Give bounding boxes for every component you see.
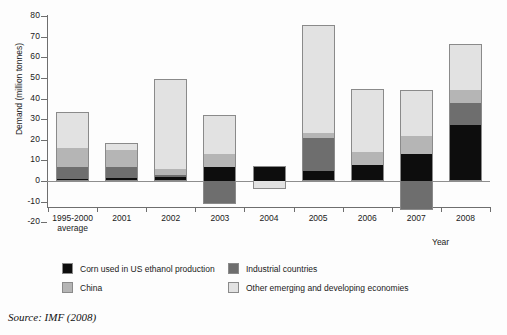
y-tick-label: 40 xyxy=(0,94,40,103)
bar-segment xyxy=(56,167,89,179)
x-tick-label-line: 2007 xyxy=(407,213,426,223)
y-tick-label: 30 xyxy=(0,114,40,123)
x-tick xyxy=(48,207,49,212)
bar-segment xyxy=(302,138,335,171)
bar-segment xyxy=(56,148,89,167)
legend-item-china: China xyxy=(62,282,102,293)
x-tick-label: 2006 xyxy=(343,213,392,223)
chart-figure: Demand (million tonnes) 8070605040302010… xyxy=(0,0,507,335)
x-tick-label-line: 1995-2000 xyxy=(52,213,93,223)
bar-segment xyxy=(105,167,138,178)
x-tick xyxy=(195,207,196,212)
x-tick-label-line: average xyxy=(57,223,88,233)
bar-segment xyxy=(56,112,89,148)
bar-segment xyxy=(253,166,286,167)
legend-row: Corn used in US ethanol production Indus… xyxy=(62,263,482,282)
x-tick-label: 2008 xyxy=(441,213,490,223)
bar-segment xyxy=(400,181,433,210)
source-note: Source: IMF (2008) xyxy=(8,311,96,323)
bar-segment xyxy=(203,154,236,166)
chart-legend: Corn used in US ethanol production Indus… xyxy=(62,263,482,301)
y-tick-label: 60 xyxy=(0,52,40,61)
bar-segment xyxy=(351,152,384,164)
bar-segment xyxy=(105,178,138,181)
bar-segment xyxy=(154,79,187,169)
legend-label-other: Other emerging and developing economies xyxy=(246,283,409,293)
legend-swatch-corn xyxy=(62,263,73,274)
x-tick-label-line: 2006 xyxy=(358,213,377,223)
bar-segment xyxy=(253,181,286,189)
x-tick xyxy=(490,207,491,212)
x-tick xyxy=(392,207,393,212)
bar-segment xyxy=(449,103,482,126)
bar-segment xyxy=(154,177,187,181)
y-tick-label: 70 xyxy=(0,32,40,41)
legend-item-industrial: Industrial countries xyxy=(228,263,317,274)
y-tick-label: -20 xyxy=(0,217,40,226)
bar-segment xyxy=(351,165,384,182)
legend-row: China Other emerging and developing econ… xyxy=(62,282,482,301)
x-tick-label: 2003 xyxy=(195,213,244,223)
bar-segment xyxy=(203,181,236,204)
bar-segment xyxy=(56,179,89,181)
bar-segment xyxy=(154,169,187,175)
bar-segment xyxy=(302,25,335,132)
bar-segment xyxy=(154,175,187,177)
legend-label-china: China xyxy=(80,283,102,293)
x-tick-label: 2004 xyxy=(244,213,293,223)
bar-segment xyxy=(449,44,482,90)
bar-segment xyxy=(105,143,138,150)
x-axis-title: Year xyxy=(432,237,449,247)
x-tick-label: 2005 xyxy=(294,213,343,223)
y-tick-label: 80 xyxy=(0,11,40,20)
y-tick-label: 20 xyxy=(0,135,40,144)
bar-segment xyxy=(253,167,286,181)
legend-swatch-industrial xyxy=(228,263,239,274)
legend-swatch-other xyxy=(228,282,239,293)
bar-segment xyxy=(302,133,335,138)
x-tick-label-line: 2001 xyxy=(112,213,131,223)
x-tick xyxy=(294,207,295,212)
legend-item-other: Other emerging and developing economies xyxy=(228,282,409,293)
y-tick-label: 10 xyxy=(0,155,40,164)
x-tick-label: 2001 xyxy=(97,213,146,223)
y-axis-labels: 80706050403020100-10-20 xyxy=(0,0,40,335)
bar-segment xyxy=(449,125,482,181)
x-tick-label-line: 2005 xyxy=(309,213,328,223)
bar-segment xyxy=(105,150,138,167)
x-tick-label-line: 2002 xyxy=(161,213,180,223)
bar-segment xyxy=(449,90,482,102)
bar-segment xyxy=(400,136,433,155)
bar-segment xyxy=(351,89,384,152)
x-tick-label: 1995-2000average xyxy=(48,213,97,233)
bar-segment xyxy=(400,154,433,181)
bar-segment xyxy=(400,90,433,135)
legend-label-industrial: Industrial countries xyxy=(246,264,317,274)
x-tick xyxy=(146,207,147,212)
x-tick-label: 2002 xyxy=(146,213,195,223)
bar-segment xyxy=(203,167,236,181)
x-tick-label-line: 2004 xyxy=(260,213,279,223)
x-tick-label: 2007 xyxy=(392,213,441,223)
legend-item-corn: Corn used in US ethanol production xyxy=(62,263,215,274)
x-tick xyxy=(343,207,344,212)
bar-segment xyxy=(302,171,335,181)
x-tick xyxy=(441,207,442,212)
y-tick-label: -10 xyxy=(0,197,40,206)
x-tick-label-line: 2003 xyxy=(210,213,229,223)
y-tick xyxy=(41,222,47,223)
bar-segment xyxy=(203,115,236,154)
y-tick-label: 50 xyxy=(0,73,40,82)
legend-swatch-china xyxy=(62,282,73,293)
y-tick-label: 0 xyxy=(0,176,40,185)
x-tick-label-line: 2008 xyxy=(456,213,475,223)
legend-label-corn: Corn used in US ethanol production xyxy=(80,264,215,274)
y-axis-line xyxy=(47,15,48,207)
x-tick xyxy=(97,207,98,212)
x-tick xyxy=(244,207,245,212)
